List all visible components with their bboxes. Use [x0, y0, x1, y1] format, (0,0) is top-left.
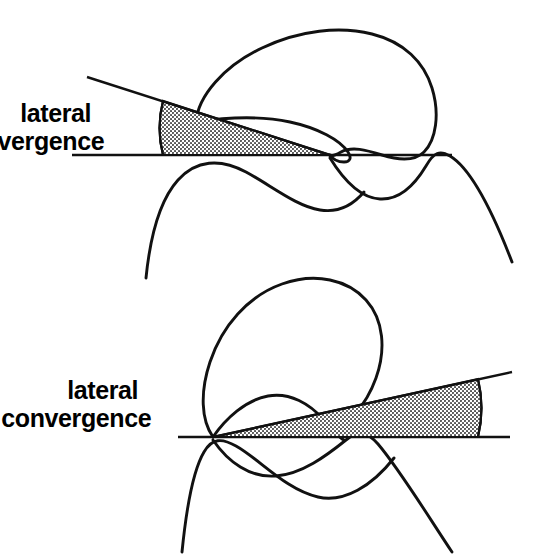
label-convergence-line1: lateral — [67, 376, 138, 404]
label-divergence-line1: lateral — [20, 99, 91, 127]
label-divergence-line2: divergence — [0, 127, 105, 155]
label-convergence-line2: convergence — [1, 404, 151, 432]
dental-occlusion-diagram: lateral divergence lateral — [0, 0, 542, 555]
figure-root: lateral divergence lateral — [0, 0, 542, 555]
